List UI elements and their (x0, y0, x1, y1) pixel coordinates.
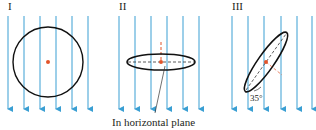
angle-label: 35° (250, 93, 263, 103)
center-dot (159, 60, 163, 64)
field-lines-panel-3 (232, 16, 312, 109)
panel-3: III 35° (232, 0, 312, 109)
panel-2-label: II (119, 0, 127, 12)
magnetic-flux-loop-diagram: I II In horizontal plane III (0, 0, 316, 130)
caption-leader-line (155, 66, 165, 113)
caption: In horizontal plane (112, 116, 195, 128)
panel-3-label: III (232, 0, 243, 12)
panel-2: II In horizontal plane (112, 0, 199, 128)
panel-1-label: I (8, 0, 12, 12)
center-dot (46, 60, 50, 64)
panel-1: I (8, 0, 88, 109)
center-dot (264, 60, 268, 64)
